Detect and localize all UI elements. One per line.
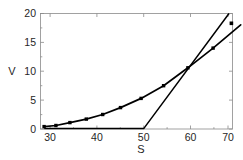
option-value-chart: 30 40 50 60 70 0 5 10 15 20 V S (0, 0, 243, 160)
x-tick-label: 40 (91, 131, 103, 143)
payoff-line (44, 14, 229, 129)
y-tick-labels: 0 5 10 15 20 (24, 7, 36, 134)
plot-frame (41, 14, 233, 130)
x-axis-title: S (137, 143, 144, 155)
y-tick-label: 5 (30, 94, 36, 106)
x-axis-ticks-top (50, 14, 228, 18)
x-tick-label: 30 (44, 131, 56, 143)
y-tick-label: 0 (30, 123, 36, 135)
y-tick-label: 20 (24, 7, 36, 19)
x-tick-labels: 30 40 50 60 70 (44, 131, 234, 143)
chart-container: 30 40 50 60 70 0 5 10 15 20 V S (0, 0, 243, 160)
x-tick-label: 70 (222, 131, 234, 143)
y-tick-label: 15 (24, 36, 36, 48)
data-point-markers (42, 22, 233, 129)
x-tick-label: 60 (185, 131, 197, 143)
y-axis-title: V (8, 65, 16, 77)
y-tick-label: 10 (24, 65, 36, 77)
y-axis-ticks-right (229, 14, 233, 130)
x-tick-label: 50 (138, 131, 150, 143)
option-value-curve (44, 25, 241, 127)
y-axis-ticks (41, 14, 45, 130)
